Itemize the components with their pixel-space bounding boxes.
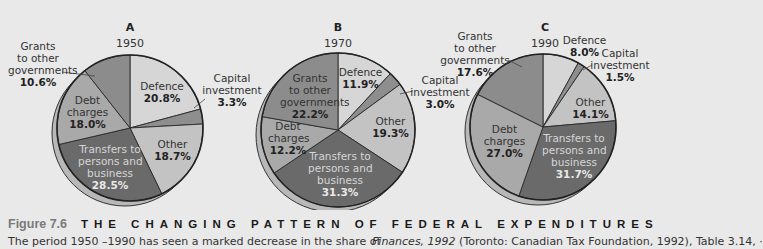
label-text: investment bbox=[202, 84, 261, 96]
label-text: Grants bbox=[20, 40, 55, 52]
label-value: 31.7% bbox=[542, 168, 606, 180]
caption-source-italic: Finances, 1992 bbox=[372, 235, 456, 248]
label-text: to other bbox=[289, 84, 331, 96]
label-text: Debt bbox=[492, 123, 517, 135]
pie-c-header: C 1990 bbox=[525, 21, 565, 50]
label-value: 12.2% bbox=[268, 144, 308, 156]
label-text: charges bbox=[67, 106, 109, 118]
label-value: 11.9% bbox=[338, 78, 383, 90]
pie-c-letter: C bbox=[525, 21, 565, 34]
label-text: Transfers to bbox=[309, 150, 371, 162]
pie-b-label-grants: Grants to other governments 22.2% bbox=[280, 72, 340, 120]
label-text: investment bbox=[590, 59, 649, 71]
caption-left: The period 1950 –1990 has seen a marked … bbox=[8, 235, 380, 248]
pie-a-label-debt: Debt charges 18.0% bbox=[65, 94, 110, 130]
label-text: Capital bbox=[214, 72, 251, 84]
label-text: governments bbox=[440, 54, 509, 66]
label-value: 22.2% bbox=[280, 108, 340, 120]
pie-a-label-capital: Capital investment 3.3% bbox=[202, 72, 262, 108]
label-text: business bbox=[551, 156, 597, 168]
label-text: Debt bbox=[275, 120, 300, 132]
figure-title: THE CHANGING PATTERN OF FEDERAL EXPENDIT… bbox=[81, 218, 659, 230]
pie-a-letter: A bbox=[110, 21, 150, 34]
label-value: 31.3% bbox=[308, 186, 372, 198]
label-text: persons and bbox=[78, 155, 143, 167]
label-text: Other bbox=[376, 115, 406, 127]
pie-a-header: A 1950 bbox=[110, 21, 150, 50]
label-value: 20.8% bbox=[137, 92, 187, 104]
pie-b-label-other: Other 19.3% bbox=[368, 115, 413, 139]
label-text: Defence bbox=[563, 34, 607, 46]
pie-a-label-defence: Defence 20.8% bbox=[137, 80, 187, 104]
label-text: governments bbox=[8, 64, 77, 76]
label-text: to other bbox=[454, 42, 496, 54]
pie-b-label-transfers: Transfers to persons and business 31.3% bbox=[308, 150, 372, 198]
label-text: Other bbox=[158, 138, 188, 150]
label-value: 17.6% bbox=[440, 66, 510, 78]
label-text: Grants bbox=[457, 30, 492, 42]
label-text: Other bbox=[576, 96, 606, 108]
pie-b-year: 1970 bbox=[324, 37, 352, 50]
caption-source: (Toronto: Canadian Tax Foundation, 1992)… bbox=[456, 235, 763, 248]
label-text: persons and bbox=[542, 144, 607, 156]
label-value: 27.0% bbox=[482, 147, 527, 159]
label-text: business bbox=[317, 174, 363, 186]
label-value: 28.5% bbox=[78, 179, 142, 191]
pie-charts-area: A 1950 B 1970 C 1990 Grants to other gov… bbox=[0, 0, 650, 210]
label-text: governments bbox=[280, 96, 349, 108]
pie-b-header: B 1970 bbox=[318, 21, 358, 50]
label-value: 3.3% bbox=[202, 96, 262, 108]
pie-b-label-debt: Debt charges 12.2% bbox=[268, 120, 308, 156]
caption-right: Finances, 1992 (Toronto: Canadian Tax Fo… bbox=[372, 235, 763, 248]
pie-c-label-grants: Grants to other governments 17.6% bbox=[440, 30, 510, 78]
label-value: 1.5% bbox=[590, 71, 650, 83]
label-value: 19.3% bbox=[368, 127, 413, 139]
label-value: 18.7% bbox=[150, 150, 195, 162]
pie-a-label-transfers: Transfers to persons and business 28.5% bbox=[78, 143, 142, 191]
label-text: persons and bbox=[308, 162, 373, 174]
pie-c-label-capital: Capital investment 1.5% bbox=[590, 47, 650, 83]
pie-b-label-defence: Defence 11.9% bbox=[338, 66, 383, 90]
pie-c-label-other: Other 14.1% bbox=[568, 96, 613, 120]
label-text: Debt bbox=[75, 94, 100, 106]
pie-b-label-capital: Capital investment 3.0% bbox=[410, 74, 470, 110]
pie-c-label-debt: Debt charges 27.0% bbox=[482, 123, 527, 159]
label-value: 18.0% bbox=[65, 118, 110, 130]
pie-a-year: 1950 bbox=[116, 37, 144, 50]
figure-number: Figure 7.6 bbox=[8, 217, 67, 231]
label-text: charges bbox=[268, 132, 310, 144]
pie-c-year: 1990 bbox=[531, 37, 559, 50]
label-text: Capital bbox=[602, 47, 639, 59]
label-text: investment bbox=[410, 86, 469, 98]
pie-c-label-transfers: Transfers to persons and business 31.7% bbox=[542, 132, 606, 180]
label-text: to other bbox=[17, 52, 59, 64]
label-text: Defence bbox=[339, 66, 383, 78]
pie-a-label-grants: Grants to other governments 10.6% bbox=[8, 40, 68, 88]
label-text: Transfers to bbox=[543, 132, 605, 144]
label-value: 3.0% bbox=[410, 98, 470, 110]
figure-heading: Figure 7.6 THE CHANGING PATTERN OF FEDER… bbox=[8, 217, 659, 231]
label-value: 10.6% bbox=[8, 76, 68, 88]
pie-b-letter: B bbox=[318, 21, 358, 34]
label-text: charges bbox=[484, 135, 526, 147]
label-text: Grants bbox=[292, 72, 327, 84]
label-value: 14.1% bbox=[568, 108, 613, 120]
label-text: Transfers to bbox=[79, 143, 141, 155]
label-text: business bbox=[87, 167, 133, 179]
pie-a-label-other: Other 18.7% bbox=[150, 138, 195, 162]
label-text: Defence bbox=[140, 80, 184, 92]
